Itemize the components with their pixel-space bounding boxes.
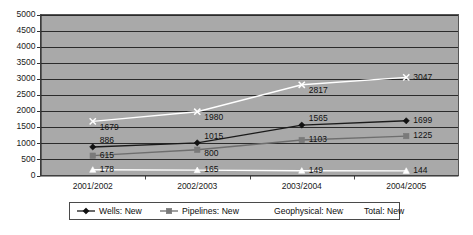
data-label: 2817 xyxy=(309,85,328,95)
data-label: 1980 xyxy=(204,112,223,122)
data-label: 165 xyxy=(204,164,218,174)
data-label: 1225 xyxy=(413,130,432,140)
legend-label: Wells: New xyxy=(99,206,143,216)
data-point-marker-square xyxy=(90,153,95,158)
y-tick-label: 3500 xyxy=(17,57,36,67)
data-label: 800 xyxy=(204,148,218,158)
data-point-marker-square xyxy=(299,137,304,142)
legend-label: Geophysical: New xyxy=(274,206,344,216)
data-label: 1015 xyxy=(204,131,223,141)
data-point-marker-square xyxy=(166,208,171,213)
x-tick-label: 2004/2005 xyxy=(386,181,426,191)
data-label: 1103 xyxy=(309,134,328,144)
legend-label: Total: New xyxy=(364,206,405,216)
data-label: 1565 xyxy=(309,113,328,123)
y-tick-label: 4000 xyxy=(17,41,36,51)
data-label: 1699 xyxy=(413,115,432,125)
data-point-marker-square xyxy=(195,147,200,152)
y-tick-label: 1500 xyxy=(17,121,36,131)
y-tick-label: 2000 xyxy=(17,105,36,115)
data-label: 149 xyxy=(309,165,323,175)
data-point-marker-square xyxy=(404,133,409,138)
data-label: 178 xyxy=(100,164,114,174)
data-label: 144 xyxy=(413,165,427,175)
chart-canvas: 0500100015002000250030003500400045005000… xyxy=(0,0,473,235)
legend-label: Pipelines: New xyxy=(182,206,240,216)
y-tick-label: 0 xyxy=(31,170,36,180)
y-tick-label: 1000 xyxy=(17,138,36,148)
x-tick-label: 2003/2004 xyxy=(282,181,322,191)
x-tick-label: 2002/2003 xyxy=(177,181,217,191)
x-tick-label: 2001/2002 xyxy=(73,181,113,191)
data-label: 615 xyxy=(100,150,114,160)
data-label: 886 xyxy=(100,135,114,145)
y-tick-label: 500 xyxy=(21,154,35,164)
y-tick-label: 3000 xyxy=(17,73,36,83)
y-tick-label: 2500 xyxy=(17,89,36,99)
chart-legend[interactable]: Wells: NewPipelines: NewGeophysical: New… xyxy=(70,203,405,220)
data-label: 1679 xyxy=(100,122,119,132)
y-tick-label: 5000 xyxy=(17,9,36,19)
line-chart: 0500100015002000250030003500400045005000… xyxy=(0,0,473,235)
y-tick-label: 4500 xyxy=(17,25,36,35)
data-label: 3047 xyxy=(413,72,432,82)
